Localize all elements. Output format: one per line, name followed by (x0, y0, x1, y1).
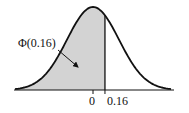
x-tick-label: 0 (89, 94, 95, 108)
x-tick-label: 0.16 (107, 94, 128, 108)
chart-canvas: 00.16 Φ(0.16) (0, 0, 189, 113)
x-ticks: 00.16 (89, 90, 128, 108)
normal-distribution-figure: 00.16 Φ(0.16) (0, 0, 189, 113)
phi-label: Φ(0.16) (18, 36, 56, 50)
